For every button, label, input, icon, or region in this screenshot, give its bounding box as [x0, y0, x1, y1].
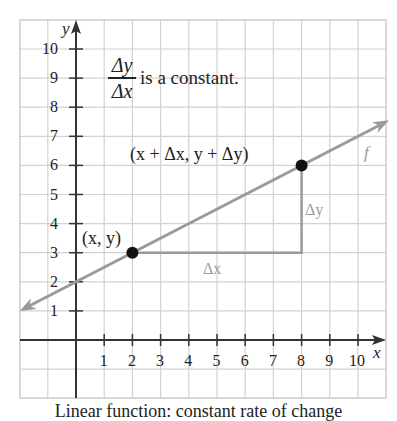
function-label: f: [364, 144, 369, 161]
y-tick-label: 1: [50, 303, 58, 319]
y-tick-label: 9: [50, 70, 58, 86]
x-tick-label: 7: [269, 353, 277, 369]
y-axis-label: y: [62, 20, 70, 37]
fraction-bar: [108, 77, 136, 79]
y-tick-label: 8: [50, 99, 58, 115]
data-point: [296, 159, 308, 171]
x-tick-label: 3: [156, 353, 164, 369]
delta-y-label: Δy: [305, 202, 323, 218]
slope-annotation-text: is a constant.: [140, 67, 239, 89]
data-point: [126, 247, 138, 259]
fraction-numerator: Δy: [112, 54, 133, 76]
y-tick-label: 3: [50, 245, 58, 261]
figure-caption: Linear function: constant rate of change: [0, 402, 397, 420]
slope-annotation: Δy Δx is a constant.: [108, 54, 239, 102]
y-tick-label: 6: [50, 157, 58, 173]
x-tick-label: 6: [241, 353, 249, 369]
point2-label: (x + Δx, y + Δy): [130, 145, 248, 163]
slope-fraction: Δy Δx: [108, 54, 136, 102]
x-tick-label: 4: [184, 353, 192, 369]
x-tick-label: 1: [100, 353, 108, 369]
fraction-denominator: Δx: [112, 80, 133, 102]
y-tick-label: 10: [42, 41, 58, 57]
x-tick-label: 2: [128, 353, 136, 369]
point1-label: (x, y): [82, 229, 121, 247]
y-tick-label: 7: [50, 128, 58, 144]
y-tick-label: 2: [50, 274, 58, 290]
y-tick-label: 4: [50, 216, 58, 232]
x-tick-label: 10: [349, 353, 365, 369]
x-axis-label: x: [373, 344, 381, 361]
x-tick-label: 9: [325, 353, 333, 369]
delta-x-label: Δx: [203, 261, 221, 277]
x-tick-label: 8: [297, 353, 305, 369]
x-tick-label: 5: [213, 353, 221, 369]
y-tick-label: 5: [50, 187, 58, 203]
